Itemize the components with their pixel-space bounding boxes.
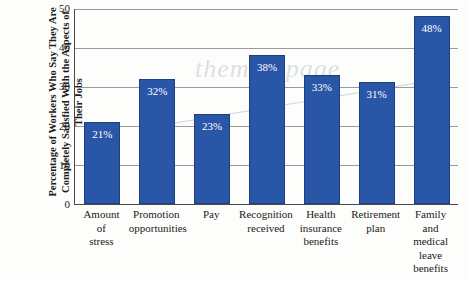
bar: 48% xyxy=(414,16,450,204)
y-axis-tick-label: 30 xyxy=(46,80,70,92)
x-axis-category-line: Recognition xyxy=(239,208,294,222)
x-axis-category-line: and xyxy=(403,222,458,236)
x-axis-category-label: Pay xyxy=(184,208,239,222)
x-axis-category-label: Promotionopportunities xyxy=(129,208,184,235)
x-axis-category-line: opportunities xyxy=(129,222,184,236)
x-axis-category-line: leave benefits xyxy=(403,249,458,276)
bar-value-label: 33% xyxy=(305,81,339,93)
x-axis-category-line: Amount xyxy=(74,208,129,222)
x-axis-category-line: plan xyxy=(348,222,403,236)
chart-figure: Percentage of Workers Who Say They Are C… xyxy=(0,0,469,281)
x-axis-category-line: insurance xyxy=(293,222,348,236)
x-axis-category-line: Health xyxy=(293,208,348,222)
x-axis-category-line: received xyxy=(239,222,294,236)
bar: 23% xyxy=(194,114,230,204)
bar: 31% xyxy=(359,82,395,204)
y-axis-tick-label: 10 xyxy=(46,159,70,171)
y-axis-tick-label: 40 xyxy=(46,41,70,53)
gridline xyxy=(75,48,458,49)
bar-value-label: 38% xyxy=(250,61,284,73)
bar: 21% xyxy=(84,122,120,204)
x-axis-category-line: medical xyxy=(403,235,458,249)
bar-value-label: 32% xyxy=(140,85,174,97)
bar: 38% xyxy=(249,55,285,204)
y-axis-tick-label: 0 xyxy=(46,198,70,210)
y-axis-tick-label: 50 xyxy=(46,2,70,14)
x-axis-category-label: Amountofstress xyxy=(74,208,129,249)
bar: 32% xyxy=(139,79,175,204)
bar-value-label: 48% xyxy=(415,22,449,34)
x-axis-category-line: Family xyxy=(403,208,458,222)
x-axis-category-label: Retirementplan xyxy=(348,208,403,235)
x-axis-category-label: Recognitionreceived xyxy=(239,208,294,235)
x-axis-category-line: benefits xyxy=(293,235,348,249)
bar-value-label: 21% xyxy=(85,128,119,140)
x-axis-category-line: Promotion xyxy=(129,208,184,222)
y-axis-tick-label: 20 xyxy=(46,120,70,132)
y-axis-tick-labels: 01020304050 xyxy=(40,0,70,205)
plot-area: themathpage 21%32%23%38%33%31%48% xyxy=(74,9,458,205)
bar-value-label: 31% xyxy=(360,88,394,100)
bar: 33% xyxy=(304,75,340,204)
x-axis-tick-labels: AmountofstressPromotionopportunitiesPayR… xyxy=(74,208,458,278)
x-axis-category-line: Retirement xyxy=(348,208,403,222)
x-axis-category-line: of xyxy=(74,222,129,236)
bar-value-label: 23% xyxy=(195,120,229,132)
gridline xyxy=(75,9,458,10)
x-axis-category-line: stress xyxy=(74,235,129,249)
x-axis-category-line: Pay xyxy=(184,208,239,222)
x-axis-category-label: Healthinsurancebenefits xyxy=(293,208,348,249)
x-axis-category-label: Familyandmedicalleave benefits xyxy=(403,208,458,276)
